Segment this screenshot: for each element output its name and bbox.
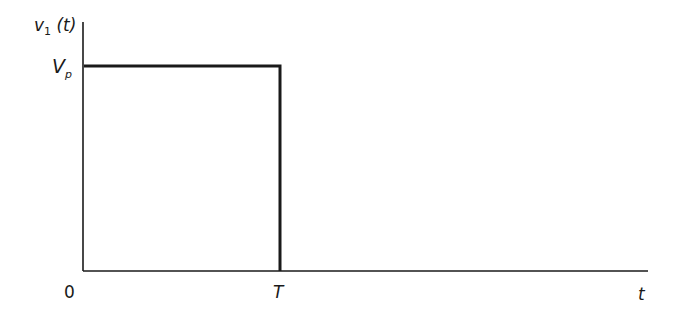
origin-tick-label: 0 — [64, 282, 75, 302]
vp-tick-label: Vp — [52, 55, 72, 81]
pulse-waveform — [84, 66, 280, 271]
y-axis-label: v1 (t) — [34, 15, 76, 38]
T-tick-label: T — [273, 282, 283, 302]
pulse-plot — [0, 0, 686, 316]
t-axis-label: t — [638, 284, 645, 304]
